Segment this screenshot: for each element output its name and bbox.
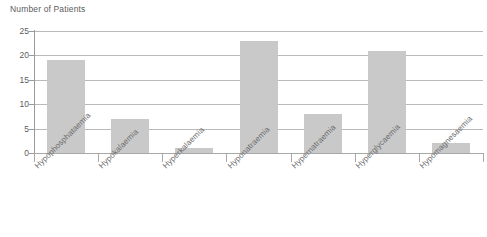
gridline xyxy=(34,31,483,32)
bar xyxy=(47,60,85,153)
y-axis: 0510152025 xyxy=(0,31,29,153)
y-tick-label: 25 xyxy=(7,26,29,36)
x-tick-mark xyxy=(483,153,484,162)
y-tick-label: 10 xyxy=(7,99,29,109)
y-tick-label: 20 xyxy=(7,50,29,60)
chart-title: Number of Patients xyxy=(10,4,85,14)
x-tick-mark xyxy=(98,153,99,162)
y-tick-label: 0 xyxy=(7,148,29,158)
bar xyxy=(432,143,470,153)
x-tick-mark xyxy=(419,153,420,162)
bar xyxy=(304,114,342,153)
x-tick-mark xyxy=(162,153,163,162)
x-tick-mark xyxy=(291,153,292,162)
x-axis-line xyxy=(34,153,483,154)
y-tick-label: 15 xyxy=(7,75,29,85)
x-tick-mark xyxy=(355,153,356,162)
y-tick-label: 5 xyxy=(7,124,29,134)
bar xyxy=(368,51,406,153)
plot-area xyxy=(34,31,483,153)
y-axis-line xyxy=(34,30,35,161)
bar xyxy=(240,41,278,153)
x-tick-mark xyxy=(226,153,227,162)
bar-chart: Number of Patients 0510152025 Hypophosph… xyxy=(0,0,487,237)
x-tick-mark xyxy=(34,153,35,162)
bar xyxy=(111,119,149,153)
